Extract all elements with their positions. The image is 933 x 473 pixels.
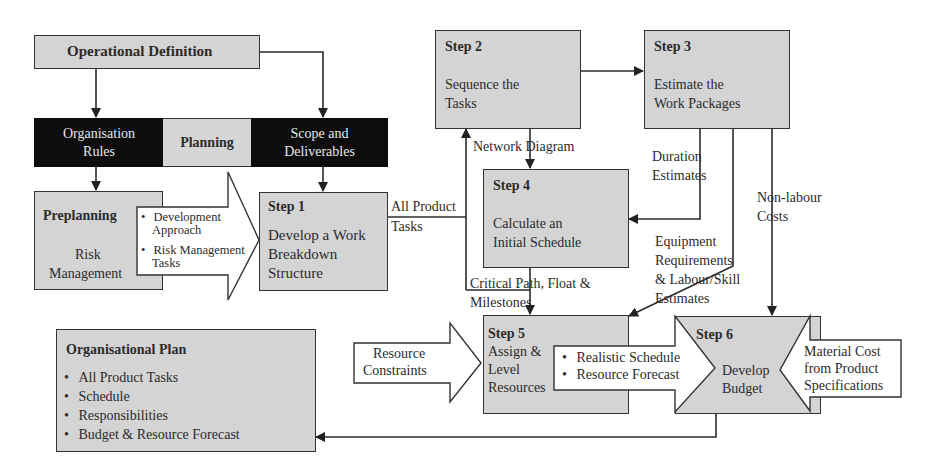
non-labour-costs-label-1: Non-labour: [757, 190, 822, 206]
material-cost-line3: Specifications: [804, 378, 883, 394]
network-diagram-label: Network Diagram: [473, 139, 574, 155]
bullet-icon: •: [64, 427, 69, 442]
duration-estimates-label-2: Estimates: [652, 168, 706, 184]
resource-constraints-line2: Constraints: [363, 363, 427, 379]
material-cost-line1: Material Cost: [804, 344, 881, 360]
organisational-plan-title: Organisational Plan: [66, 342, 186, 358]
step5-output-realistic-schedule: • Realistic Schedule: [562, 350, 680, 366]
org-plan-item: • All Product Tasks: [64, 370, 178, 386]
organisational-plan-box: Organisational Plan • All Product Tasks …: [56, 329, 316, 452]
step5-output-resource-forecast: • Resource Forecast: [562, 367, 679, 383]
duration-estimates-label-1: Duration: [652, 149, 702, 165]
resource-constraints-line1: Resource: [373, 346, 425, 362]
critical-path-label-2: Milestones: [470, 295, 531, 311]
critical-path-label-1: Critical Path, Float &: [470, 276, 591, 292]
non-labour-costs-label-2: Costs: [757, 209, 788, 225]
bullet-icon: •: [64, 389, 69, 404]
bullet-icon: •: [562, 367, 567, 382]
org-plan-item: • Schedule: [64, 389, 130, 405]
all-product-tasks-label-2: Tasks: [391, 219, 423, 235]
equipment-label-3: & Labour/Skill: [655, 272, 740, 288]
bullet-icon: •: [64, 408, 69, 423]
bullet-icon: •: [562, 350, 567, 365]
equipment-label-1: Equipment: [655, 234, 716, 250]
bullet-icon: •: [64, 370, 69, 385]
equipment-label-2: Requirements: [655, 253, 733, 269]
equipment-label-4: Estimates: [655, 291, 709, 307]
all-product-tasks-label-1: All Product: [391, 199, 456, 215]
material-cost-line2: from Product: [804, 361, 878, 377]
org-plan-item: • Budget & Resource Forecast: [64, 427, 240, 443]
org-plan-item: • Responsibilities: [64, 408, 168, 424]
